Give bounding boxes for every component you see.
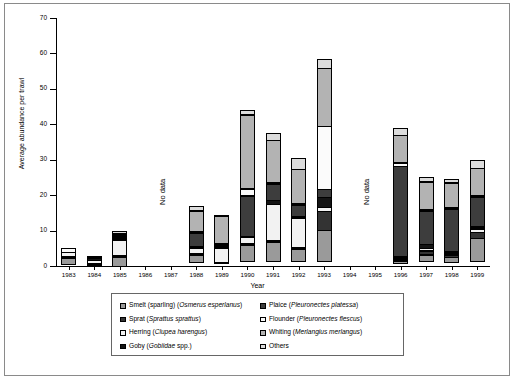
bar-segment-whiting [419,182,434,210]
legend-label: Goby (Gobiidae spp.) [129,343,192,350]
bar-1985[interactable] [112,231,127,266]
bar-segment-plaice [419,211,434,245]
bar-1992[interactable] [291,158,306,266]
bar-segment-plaice [291,205,306,216]
x-axis-title: Year [0,282,515,289]
x-tick [196,266,197,270]
no-data-label: No data [158,179,167,205]
plot-area: 010203040506070 Average abundance per tr… [0,0,515,290]
bar-1983[interactable] [61,248,76,266]
x-tick [247,266,248,270]
x-tick-label: 1999 [457,272,497,278]
legend-label: Smelt (sparling) (Osmerus esperlanus) [129,302,242,309]
bar-segment-plaice [240,196,255,237]
x-tick [299,266,300,270]
bar-1998[interactable] [444,179,459,266]
legend-label: Others [269,343,289,350]
legend-label: Plaice (Pleuronectes platessa) [269,302,358,309]
x-tick [477,266,478,270]
legend-label: Whiting (Merlangius merlangus) [269,329,362,336]
bar-segment-herring [112,240,127,256]
bar-segment-whiting [266,140,281,183]
bar-segment-whiting [240,115,255,189]
legend-swatch-icon [260,317,266,323]
legend-column-right: Plaice (Pleuronectes platessa)Flounder (… [260,299,408,353]
x-tick [324,266,325,270]
bar-segment-whiting [291,169,306,204]
bar-segment-plaice [266,184,281,201]
legend-item-right-3[interactable]: Others [260,340,408,354]
x-tick [350,266,351,270]
legend-swatch-icon [120,330,126,336]
bar-segment-smelt [470,238,485,262]
bars-layer: No dataNo data [0,0,515,266]
bar-segment-whiting [444,183,459,209]
bar-segment-smelt [240,245,255,262]
bar-segment-herring [291,218,306,248]
legend-label: Sprat (Sprattus sprattus) [129,316,201,323]
no-data-label: No data [362,179,371,205]
bar-segment-plaice [393,166,408,256]
bar-segment-sprat [214,262,229,264]
bar-segment-smelt [317,230,332,262]
bar-1989[interactable] [214,215,229,266]
chart-legend: Smelt (sparling) (Osmerus esperlanus)Spr… [111,293,404,356]
legend-item-left-3[interactable]: Goby (Gobiidae spp.) [120,340,270,354]
x-tick [120,266,121,270]
legend-item-right-2[interactable]: Whiting (Merlangius merlangus) [260,326,408,340]
y-tick [50,266,56,267]
bar-segment-plaice [189,233,204,247]
chart-figure: 010203040506070 Average abundance per tr… [0,0,515,380]
bar-segment-whiting [393,135,408,163]
bar-segment-whiting [470,168,485,196]
legend-item-left-0[interactable]: Smelt (sparling) (Osmerus esperlanus) [120,299,270,313]
bar-segment-flounder [317,126,332,190]
bar-segment-plaice [444,209,459,252]
bar-segment-others [291,158,306,170]
legend-item-left-1[interactable]: Sprat (Sprattus sprattus) [120,313,270,327]
legend-swatch-icon [260,303,266,309]
legend-swatch-icon [120,344,126,350]
bar-1984[interactable] [87,256,102,266]
bar-segment-herring [214,248,229,263]
legend-label: Flounder (Pleuronectes flescus) [269,316,362,323]
x-tick [171,266,172,270]
bar-1999[interactable] [470,160,485,266]
legend-swatch-icon [260,330,266,336]
bar-1990[interactable] [240,110,255,266]
bar-segment-smelt [291,249,306,262]
bar-segment-sprat [317,211,332,230]
legend-column-left: Smelt (sparling) (Osmerus esperlanus)Spr… [120,299,270,353]
x-tick [94,266,95,270]
bar-1988[interactable] [189,206,204,266]
x-tick [375,266,376,270]
bar-segment-smelt [393,261,408,264]
x-tick [145,266,146,270]
bar-1991[interactable] [266,133,281,266]
bar-segment-herring [266,204,281,241]
bar-segment-smelt [266,242,281,261]
legend-item-right-0[interactable]: Plaice (Pleuronectes platessa) [260,299,408,313]
bar-segment-whiting [189,211,204,233]
bar-segment-smelt [444,257,459,263]
bar-segment-whiting [214,216,229,244]
x-tick [426,266,427,270]
bar-1996[interactable] [393,128,408,266]
bar-segment-smelt [189,255,204,262]
bar-segment-smelt [419,255,434,262]
bar-1997[interactable] [419,177,434,266]
bar-segment-plaice [470,197,485,227]
legend-item-right-1[interactable]: Flounder (Pleuronectes flescus) [260,313,408,327]
x-tick [401,266,402,270]
bar-1993[interactable] [317,59,332,266]
bar-segment-smelt [61,258,76,265]
legend-swatch-icon [120,317,126,323]
legend-label: Herring (Clupea harengus) [129,329,207,336]
bar-segment-whiting [317,68,332,126]
x-tick [273,266,274,270]
bar-segment-goby [317,197,332,208]
legend-swatch-icon [260,344,266,350]
x-tick [69,266,70,270]
legend-swatch-icon [120,303,126,309]
legend-item-left-2[interactable]: Herring (Clupea harengus) [120,326,270,340]
